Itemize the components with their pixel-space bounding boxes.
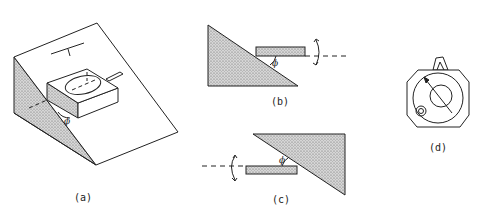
panel-d-clinometer [407,57,469,127]
clinometer-body [407,70,469,127]
panel-d-label: (d) [429,142,447,153]
panel-b: ϕ [208,25,350,86]
phi-symbol-b: ϕ [272,58,278,68]
panel-a-wedge: ϕ [14,23,178,165]
panel-c-label: (c) [272,194,290,205]
panel-b-label: (b) [271,96,289,107]
phi-symbol-c: ϕ [279,155,285,165]
panel-c: ϕ [202,134,345,195]
bar-b [256,47,305,56]
bar-c [246,166,297,174]
phi-symbol-a: ϕ [64,116,70,126]
wedge-c [253,134,345,195]
figure-canvas: ϕ ϕ ϕ [0,0,479,218]
panel-a-label: (a) [74,192,92,203]
